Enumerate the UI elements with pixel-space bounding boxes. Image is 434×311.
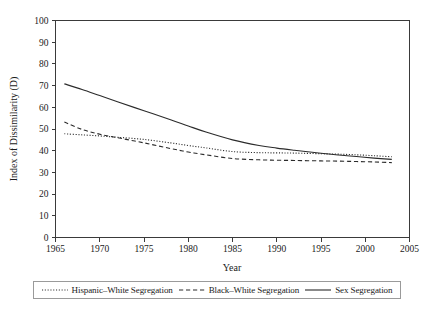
y-tick-label: 40 (39, 146, 49, 156)
x-tick-label: 1975 (135, 244, 154, 254)
legend-sample-solid-icon (305, 286, 331, 294)
x-axis-title: Year (223, 262, 242, 273)
data-series-group (64, 84, 391, 163)
legend-sample-dashed-icon (179, 286, 205, 294)
y-tick-label: 0 (44, 233, 49, 243)
y-tick-label: 70 (39, 81, 49, 91)
legend-entry-2: Sex Segregation (302, 285, 395, 295)
x-axis-ticks: 196519701975198019851990199520002005 (46, 238, 419, 254)
chart-canvas: 0102030405060708090100 19651970197519801… (0, 0, 434, 311)
x-tick-label: 2000 (356, 244, 375, 254)
x-tick-label: 1985 (223, 244, 242, 254)
y-tick-label: 100 (34, 16, 49, 26)
x-tick-label: 2005 (400, 244, 419, 254)
x-tick-label: 1995 (312, 244, 331, 254)
x-tick-label: 1970 (90, 244, 109, 254)
legend-label: Sex Segregation (335, 285, 392, 295)
y-tick-label: 80 (39, 59, 49, 69)
series-line-dashed (64, 122, 391, 163)
legend-entry-1: Black–White Segregation (176, 285, 302, 295)
axis-frame (56, 21, 410, 238)
y-tick-label: 60 (39, 103, 49, 113)
y-tick-label: 90 (39, 38, 49, 48)
y-tick-label: 10 (39, 211, 49, 221)
legend-label: Black–White Segregation (209, 285, 299, 295)
chart-legend: Hispanic–White SegregationBlack–White Se… (33, 281, 401, 299)
y-tick-label: 30 (39, 168, 49, 178)
y-tick-label: 20 (39, 189, 49, 199)
y-axis-title: Index of Dissimilarity (D) (8, 77, 20, 182)
x-tick-label: 1980 (179, 244, 198, 254)
legend-entry-0: Hispanic–White Segregation (39, 285, 176, 295)
series-line-solid (64, 84, 391, 160)
y-axis-ticks: 0102030405060708090100 (34, 16, 55, 243)
x-tick-label: 1965 (46, 244, 65, 254)
segregation-trend-figure: 0102030405060708090100 19651970197519801… (0, 0, 434, 311)
legend-label: Hispanic–White Segregation (72, 285, 173, 295)
y-tick-label: 50 (39, 124, 49, 134)
legend-sample-dotted-icon (42, 286, 68, 294)
x-tick-label: 1990 (267, 244, 286, 254)
